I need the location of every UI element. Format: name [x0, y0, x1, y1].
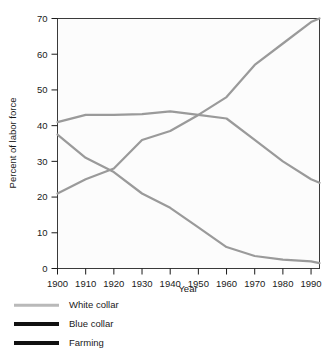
legend-item-farming: Farming — [14, 334, 104, 352]
legend-item-blue-collar: Blue collar — [14, 315, 113, 333]
y-tick-label: 30 — [37, 156, 48, 167]
x-tick-label: 1920 — [103, 278, 124, 289]
y-tick-label: 40 — [37, 120, 48, 131]
legend-swatch-white-collar — [14, 298, 59, 312]
y-tick-label: 70 — [37, 13, 48, 24]
x-tick-label: 1960 — [216, 278, 237, 289]
x-tick-label: 1930 — [131, 278, 152, 289]
x-tick-label: 1900 — [47, 278, 68, 289]
chart-canvas: 010203040506070 190019101920193019401950… — [0, 0, 330, 296]
y-tick-label: 50 — [37, 84, 48, 95]
x-tick-label: 1970 — [244, 278, 265, 289]
y-axis: 010203040506070 — [37, 13, 58, 274]
y-tick-label: 10 — [37, 227, 48, 238]
chart-legend: White collar Blue collar Farming — [0, 296, 330, 359]
legend-swatch-farming — [14, 336, 59, 350]
legend-swatch-blue-collar — [14, 317, 59, 331]
legend-label-farming: Farming — [69, 336, 104, 350]
y-tick-label: 20 — [37, 191, 48, 202]
x-axis-title: Year — [178, 283, 197, 294]
y-tick-label: 60 — [37, 49, 48, 60]
figure-root: 010203040506070 190019101920193019401950… — [0, 0, 330, 359]
legend-label-white-collar: White collar — [69, 298, 119, 312]
x-tick-label: 1990 — [300, 278, 321, 289]
legend-item-white-collar: White collar — [14, 296, 119, 314]
line-chart: 010203040506070 190019101920193019401950… — [0, 0, 330, 296]
legend-label-blue-collar: Blue collar — [69, 317, 113, 331]
y-axis-title: Percent of labor force — [7, 98, 18, 189]
plot-area-frame — [58, 19, 320, 269]
x-tick-label: 1980 — [272, 278, 293, 289]
x-tick-label: 1910 — [75, 278, 96, 289]
y-tick-label: 0 — [42, 263, 47, 274]
